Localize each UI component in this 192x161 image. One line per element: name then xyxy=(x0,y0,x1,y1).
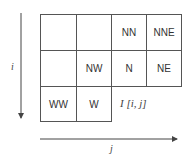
j-axis-label: j xyxy=(110,143,113,154)
grid-cell: NN xyxy=(111,14,147,51)
grid-cell: NNE xyxy=(146,14,182,51)
grid-cell: NW xyxy=(76,50,112,87)
grid-cell: W xyxy=(76,86,112,122)
current-pixel-label: I [i, j] xyxy=(120,97,147,109)
grid-cell xyxy=(76,14,112,51)
grid-cell: NE xyxy=(146,50,182,87)
grid-cell xyxy=(40,50,77,87)
grid-cell xyxy=(40,14,77,51)
grid-cell: N xyxy=(111,50,147,87)
grid-cell: WW xyxy=(40,86,77,122)
i-axis-label: i xyxy=(11,61,14,72)
